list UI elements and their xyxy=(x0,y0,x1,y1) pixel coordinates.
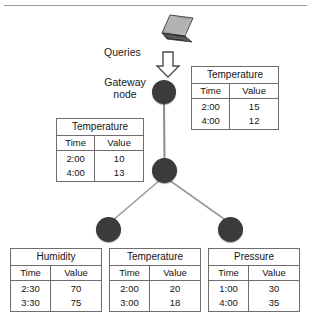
table-title-row: Temperature xyxy=(110,249,201,266)
cell-time: 3:00 xyxy=(110,296,150,312)
table-humidity: Humidity Time Value 2:30 70 3:30 75 xyxy=(10,248,102,312)
cell-value: 20 xyxy=(150,281,201,297)
column-header-value: Value xyxy=(95,136,144,151)
cell-value: 30 xyxy=(249,281,300,297)
table-row: 4:00 12 xyxy=(192,114,279,130)
column-header-time: Time xyxy=(110,266,150,281)
table-row: 2:00 15 xyxy=(192,99,279,115)
table-title-row: Pressure xyxy=(209,249,300,266)
table-header-row: Time Value xyxy=(110,266,201,281)
cell-value: 12 xyxy=(230,114,279,130)
table-title-row: Temperature xyxy=(192,67,279,84)
cell-value: 10 xyxy=(95,151,144,167)
queries-label: Queries xyxy=(104,46,141,58)
cell-time: 1:00 xyxy=(209,281,249,297)
column-header-time: Time xyxy=(57,136,95,151)
table-title: Temperature xyxy=(57,119,144,136)
node-gateway[interactable] xyxy=(152,80,176,104)
table-title-row: Humidity xyxy=(11,249,102,266)
table-header-row: Time Value xyxy=(192,84,279,99)
table-row: 3:30 75 xyxy=(11,296,102,312)
table-title: Humidity xyxy=(11,249,102,266)
cell-time: 3:30 xyxy=(11,296,51,312)
gateway-node-label: Gateway node xyxy=(100,76,150,100)
cell-time: 2:00 xyxy=(110,281,150,297)
table-row: 4:00 13 xyxy=(57,166,144,182)
cell-value: 15 xyxy=(230,99,279,115)
column-header-value: Value xyxy=(230,84,279,99)
node-leaf-right[interactable] xyxy=(218,217,243,242)
table-header-row: Time Value xyxy=(209,266,300,281)
cell-time: 4:00 xyxy=(192,114,230,130)
table-temperature: Temperature Time Value 2:00 20 3:00 18 xyxy=(109,248,201,312)
cell-time: 2:30 xyxy=(11,281,51,297)
column-header-value: Value xyxy=(51,266,102,281)
table-pressure: Pressure Time Value 1:00 30 4:00 35 xyxy=(208,248,300,312)
table-row: 4:00 35 xyxy=(209,296,300,312)
table-row: 2:00 10 xyxy=(57,151,144,167)
table-row: 1:00 30 xyxy=(209,281,300,297)
cell-time: 2:00 xyxy=(192,99,230,115)
cell-value: 13 xyxy=(95,166,144,182)
top-divider xyxy=(4,5,307,6)
cell-value: 18 xyxy=(150,296,201,312)
column-header-time: Time xyxy=(192,84,230,99)
table-row: 2:30 70 xyxy=(11,281,102,297)
table-title: Temperature xyxy=(192,67,279,84)
table-title: Pressure xyxy=(209,249,300,266)
table-header-row: Time Value xyxy=(11,266,102,281)
laptop-icon xyxy=(158,13,196,47)
table-title-row: Temperature xyxy=(57,119,144,136)
cell-value: 70 xyxy=(51,281,102,297)
table-title: Temperature xyxy=(110,249,201,266)
table-middle-temperature: Temperature Time Value 2:00 10 4:00 13 xyxy=(56,118,144,182)
cell-value: 75 xyxy=(51,296,102,312)
table-row: 2:00 20 xyxy=(110,281,201,297)
down-block-arrow-icon xyxy=(155,51,181,79)
column-header-value: Value xyxy=(150,266,201,281)
node-leaf-left[interactable] xyxy=(96,217,121,242)
table-header-row: Time Value xyxy=(57,136,144,151)
column-header-time: Time xyxy=(11,266,51,281)
column-header-time: Time xyxy=(209,266,249,281)
table-gateway-temperature: Temperature Time Value 2:00 15 4:00 12 xyxy=(191,66,279,130)
table-row: 3:00 18 xyxy=(110,296,201,312)
cell-value: 35 xyxy=(249,296,300,312)
cell-time: 4:00 xyxy=(209,296,249,312)
cell-time: 2:00 xyxy=(57,151,95,167)
column-header-value: Value xyxy=(249,266,300,281)
diagram-canvas: Queries Gateway node Temperature Time Va… xyxy=(0,0,311,335)
cell-time: 4:00 xyxy=(57,166,95,182)
node-middle[interactable] xyxy=(152,158,177,183)
